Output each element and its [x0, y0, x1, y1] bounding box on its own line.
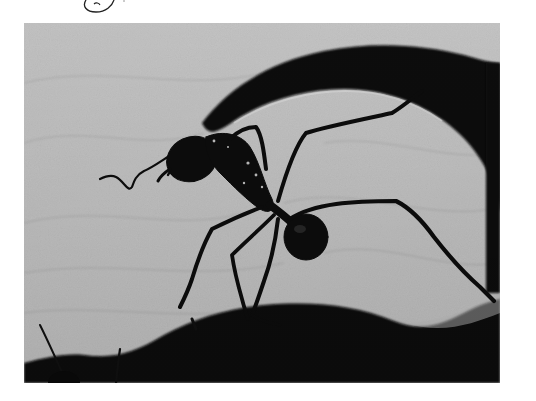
photo: [24, 23, 500, 383]
ant-photo-illustration: [24, 23, 500, 383]
page: [0, 0, 536, 401]
handwritten-circle-mark: [0, 0, 536, 24]
